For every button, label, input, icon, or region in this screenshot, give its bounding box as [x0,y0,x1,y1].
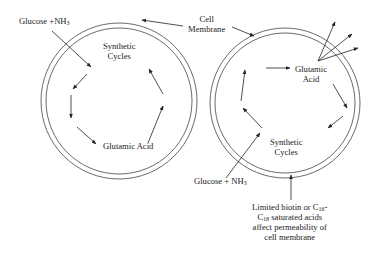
membrane-label: Cell Membrane [188,14,225,34]
efflux-arrows [318,22,358,61]
left-input-label: Glucose +NH3 [19,16,70,26]
permeability-note: Limited biotin or C16- C18 saturated aci… [252,202,327,242]
left-product-label: Glutamic Acid [103,141,153,151]
right-input-label: Glucose + NH3 [194,176,247,186]
left-cycle-label: Synthetic Cycles [103,41,135,61]
right-product-label: Glutamic Acid [295,64,327,84]
right-cycle-label: Synthetic Cycles [270,137,302,157]
